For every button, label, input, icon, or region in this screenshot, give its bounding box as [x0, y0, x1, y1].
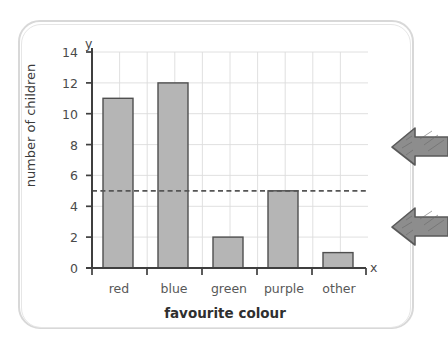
x-tick-label-purple: purple: [253, 281, 315, 296]
bar-purple: [268, 191, 298, 268]
x-axis-letter: x: [370, 260, 377, 275]
bar-red: [103, 98, 133, 268]
x-tick-label-green: green: [198, 281, 260, 296]
y-axis-title: number of children: [23, 51, 38, 201]
arrow-lower: [392, 208, 448, 245]
x-axis-title: favourite colour: [80, 305, 370, 321]
y-tick-label-8: 8: [52, 138, 78, 153]
y-tick-label-2: 2: [52, 230, 78, 245]
y-tick-label-4: 4: [52, 199, 78, 214]
y-tick-label-12: 12: [52, 76, 78, 91]
grid-vertical: [120, 52, 341, 268]
y-tick-label-10: 10: [52, 107, 78, 122]
bar-green: [213, 237, 243, 268]
bar-other: [323, 253, 353, 268]
x-tick-label-other: other: [308, 281, 370, 296]
x-tick-label-red: red: [88, 281, 150, 296]
arrow-upper: [392, 128, 448, 165]
y-axis-letter: y: [85, 36, 92, 51]
bar-blue: [158, 83, 188, 268]
y-tick-label-14: 14: [52, 45, 78, 60]
x-tick-label-blue: blue: [143, 281, 205, 296]
x-ticks: [92, 268, 366, 275]
y-tick-label-0: 0: [52, 261, 78, 276]
y-tick-label-6: 6: [52, 168, 78, 183]
